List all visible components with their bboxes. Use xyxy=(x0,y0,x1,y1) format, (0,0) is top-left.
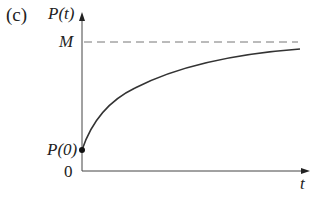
growth-curve xyxy=(82,49,300,150)
initial-point xyxy=(79,147,85,153)
y-axis-arrow-icon xyxy=(79,12,85,21)
x-axis-arrow-icon xyxy=(301,168,310,174)
plot-area xyxy=(0,0,322,197)
